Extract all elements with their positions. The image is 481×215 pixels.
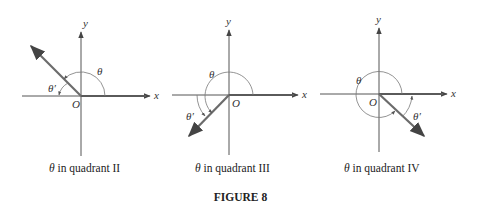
caption-text: in quadrant II — [55, 162, 120, 174]
x-axis-label: x — [450, 87, 456, 99]
terminal-side-ray — [189, 95, 229, 136]
origin-label: O — [369, 96, 377, 108]
origin-label: O — [232, 97, 240, 109]
caption-quadrant-2: θ in quadrant II — [49, 162, 120, 174]
caption-quadrant-3: θ in quadrant III — [195, 162, 270, 174]
origin-label: O — [72, 98, 80, 110]
y-axis-label: y — [375, 13, 381, 25]
reference-angle-label: θ′ — [186, 110, 194, 122]
panel-quadrant-4: y x O θ θ′ — [320, 13, 456, 152]
caption-text: in quadrant IV — [350, 162, 420, 174]
theta-label: θ — [356, 74, 362, 86]
reference-angle-arc — [402, 96, 412, 117]
panel-quadrant-3: y x O θ θ′ — [172, 15, 307, 155]
panel-quadrant-2: y x O θ θ′ — [22, 17, 159, 156]
figure-title: FIGURE 8 — [0, 191, 481, 203]
caption-quadrant-4: θ in quadrant IV — [344, 162, 420, 174]
caption-text: in quadrant III — [201, 162, 270, 174]
theta-label: θ — [97, 65, 103, 77]
terminal-side-ray — [31, 46, 81, 96]
theta-label: θ — [209, 68, 215, 80]
x-axis-label: x — [153, 89, 159, 101]
x-axis-label: x — [301, 88, 307, 100]
reference-angle-arc — [59, 83, 68, 95]
reference-angle-arc — [197, 95, 205, 116]
reference-angle-label: θ′ — [413, 110, 421, 122]
figure-canvas: y x O θ θ′ y x O θ θ′ y x O θ θ′ — [0, 0, 481, 215]
y-axis-label: y — [82, 17, 88, 29]
reference-angle-label: θ′ — [48, 82, 56, 94]
y-axis-label: y — [225, 15, 231, 27]
